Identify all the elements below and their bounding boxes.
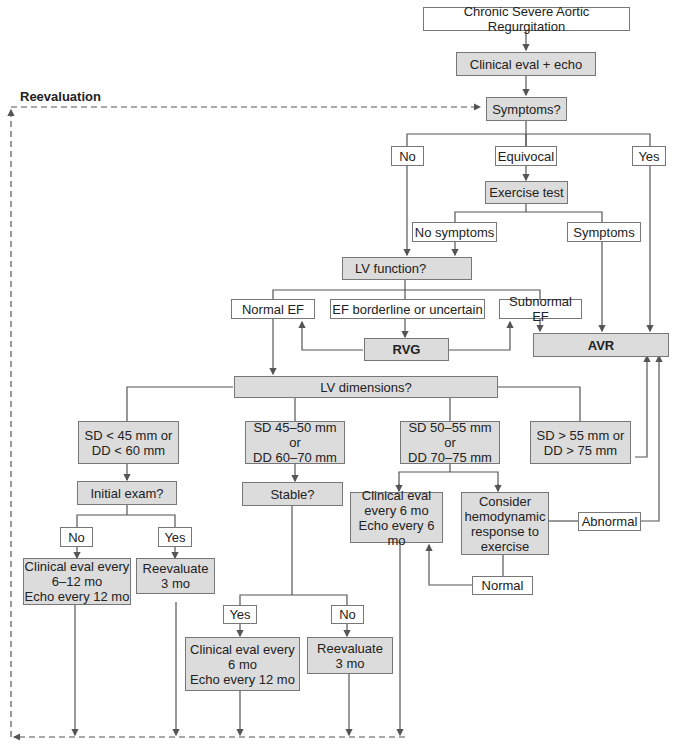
stable-question: Stable? [242,482,343,506]
dimension-sd-lt-45: SD < 45 mm or DD < 60 mm [78,421,179,464]
avr-node: AVR [533,333,669,357]
dimension-3-action: Clinical eval every 6 mo Echo every 6 mo [350,492,443,543]
ef-borderline-label: EF borderline or uncertain [330,299,485,319]
initial-exam-no-action: Clinical eval every 6–12 mo Echo every 1… [23,558,131,605]
dimension-sd-45-50: SD 45–50 mm or DD 60–70 mm [245,421,345,464]
stable-yes-action: Clinical eval every 6 mo Echo every 12 m… [185,637,300,691]
stable-no-action: Reevaluate 3 mo [307,637,393,674]
symptoms-question: Symptoms? [486,97,567,121]
symptoms-no-label: No [391,146,424,166]
initial-exam-yes-action: Reevaluate 3 mo [136,558,215,594]
no-symptoms-label: No symptoms [412,222,497,242]
start-node: Chronic Severe Aortic Regurgitation [423,7,630,31]
abnormal-label: Abnormal [578,512,641,531]
dimension-sd-gt-55: SD > 55 mm or DD > 75 mm [530,421,631,464]
symptoms-equivocal-label: Equivocal [495,146,557,166]
initial-exam-no-label: No [60,527,93,547]
stable-yes-label: Yes [223,605,257,624]
consider-hemodynamic-node: Consider hemodynamic response to exercis… [461,492,549,555]
lv-function-question: LV function? [342,257,472,280]
subnormal-ef-label: Subnormal EF [499,299,582,319]
dimension-sd-50-55: SD 50–55 mm or DD 70–75 mm [400,421,500,464]
aortic-regurgitation-flowchart: Reevaluation Chronic Severe Aortic Regur… [0,0,682,750]
symptoms-label: Symptoms [567,222,641,242]
initial-exam-question: Initial exam? [77,481,177,505]
lv-dimensions-question: LV dimensions? [234,376,498,398]
symptoms-yes-label: Yes [632,146,666,166]
reevaluation-label: Reevaluation [20,89,101,104]
stable-no-label: No [331,605,364,624]
normal-ef-label: Normal EF [231,299,315,319]
rvg-node: RVG [364,338,449,361]
initial-exam-yes-label: Yes [158,527,192,547]
normal-label: Normal [472,576,533,595]
clinical-eval-node: Clinical eval + echo [456,52,596,76]
exercise-test-node: Exercise test [485,181,568,204]
